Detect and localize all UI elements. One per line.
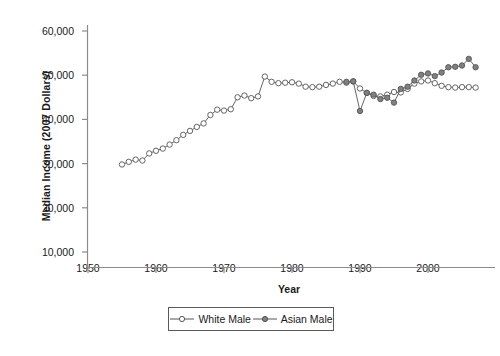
data-point: [160, 146, 165, 151]
chart-legend: White Male Asian Male: [168, 307, 334, 331]
data-point: [371, 92, 376, 97]
data-series-layer: [119, 56, 478, 167]
data-point: [473, 85, 478, 90]
data-point: [391, 100, 396, 105]
data-point: [174, 137, 179, 142]
data-point: [262, 74, 267, 79]
data-point: [181, 132, 186, 137]
data-point: [398, 86, 403, 91]
axis-lines: [88, 25, 496, 268]
data-point: [255, 94, 260, 99]
data-point: [249, 95, 254, 100]
data-point: [344, 79, 349, 84]
data-point: [140, 158, 145, 163]
legend-entry-white-male: White Male: [169, 313, 251, 325]
series-white-male: [119, 74, 478, 167]
filled-circle-marker-icon: [252, 314, 278, 324]
plot-area: [0, 0, 500, 356]
data-point: [453, 85, 458, 90]
y-axis-ticks: [82, 31, 88, 252]
data-point: [187, 128, 192, 133]
series-asian-male: [344, 56, 479, 114]
data-point: [276, 80, 281, 85]
data-point: [215, 107, 220, 112]
data-point: [337, 79, 342, 84]
data-point: [201, 121, 206, 126]
data-point: [351, 79, 356, 84]
data-point: [194, 124, 199, 129]
data-point: [453, 64, 458, 69]
data-point: [425, 78, 430, 83]
data-point: [357, 108, 362, 113]
data-point: [167, 142, 172, 147]
data-point: [208, 112, 213, 117]
data-point: [283, 80, 288, 85]
data-point: [419, 79, 424, 84]
data-point: [296, 81, 301, 86]
data-point: [323, 82, 328, 87]
data-point: [133, 157, 138, 162]
data-point: [391, 89, 396, 94]
open-circle-marker-icon: [169, 314, 195, 324]
data-point: [446, 84, 451, 89]
data-point: [466, 56, 471, 61]
data-point: [378, 96, 383, 101]
data-point: [242, 93, 247, 98]
data-point: [412, 78, 417, 83]
legend-entry-asian-male: Asian Male: [252, 313, 333, 325]
data-point: [466, 84, 471, 89]
data-point: [405, 84, 410, 89]
x-axis-ticks: [88, 268, 428, 274]
data-point: [289, 80, 294, 85]
data-point: [385, 95, 390, 100]
data-point: [459, 84, 464, 89]
data-point: [303, 84, 308, 89]
data-point: [473, 65, 478, 70]
data-point: [269, 79, 274, 84]
legend-label-asian-male: Asian Male: [281, 313, 333, 325]
data-point: [439, 70, 444, 75]
data-point: [228, 107, 233, 112]
data-point: [446, 65, 451, 70]
data-point: [221, 108, 226, 113]
data-point: [432, 73, 437, 78]
data-point: [317, 84, 322, 89]
data-point: [419, 72, 424, 77]
chart-figure: Median Income (2007 Dollars) Year 10,000…: [0, 0, 500, 356]
data-point: [310, 84, 315, 89]
data-point: [357, 86, 362, 91]
legend-label-white-male: White Male: [198, 313, 251, 325]
data-point: [119, 162, 124, 167]
data-point: [235, 95, 240, 100]
data-point: [330, 81, 335, 86]
data-point: [459, 63, 464, 68]
data-point: [439, 83, 444, 88]
data-point: [432, 80, 437, 85]
data-point: [147, 151, 152, 156]
data-point: [364, 90, 369, 95]
series-line: [122, 77, 476, 165]
data-point: [153, 148, 158, 153]
data-point: [425, 71, 430, 76]
data-point: [126, 159, 131, 164]
